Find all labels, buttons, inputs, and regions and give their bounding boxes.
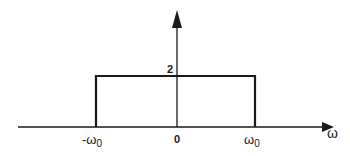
tick-label-zero: 0: [174, 133, 180, 145]
tick-label-neg-omega0: -ω0: [82, 132, 102, 149]
x-axis-label: ω: [327, 125, 338, 141]
height-label: 2: [167, 63, 173, 75]
spectrum-diagram: 2 -ω0 0 ω0 ω: [0, 0, 350, 156]
tick-label-omega0: ω0: [244, 132, 260, 149]
rect-pulse: [96, 76, 255, 127]
y-axis-arrow-icon: [172, 10, 182, 28]
